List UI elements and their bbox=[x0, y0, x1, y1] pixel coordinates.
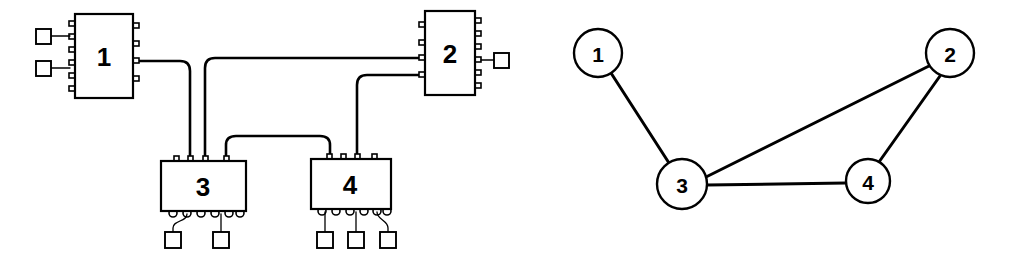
block-2-label: 2 bbox=[443, 39, 457, 69]
block-3-label: 3 bbox=[196, 172, 210, 202]
terminal-3b[interactable] bbox=[213, 232, 229, 248]
graph-edges-layer bbox=[611, 66, 940, 185]
terminal-1a[interactable] bbox=[36, 29, 51, 44]
wires-layer bbox=[133, 58, 425, 163]
figure-root: 1 bbox=[0, 0, 1013, 261]
block-3[interactable]: 3 bbox=[161, 156, 246, 217]
graph-nodes-layer: 1 2 3 4 bbox=[574, 29, 974, 209]
wire-block1-to-block3 bbox=[133, 61, 190, 163]
terminal-4b[interactable] bbox=[348, 232, 364, 248]
block-2-terminals bbox=[481, 53, 509, 68]
node-1-label: 1 bbox=[592, 43, 604, 66]
block-diagram-panel: 1 bbox=[36, 11, 509, 248]
edge-node3-node2 bbox=[706, 66, 929, 177]
edge-node3-node4 bbox=[707, 183, 846, 185]
node-3-label: 3 bbox=[676, 174, 688, 197]
terminal-4a[interactable] bbox=[317, 232, 333, 248]
figure-canvas: 1 bbox=[0, 0, 1013, 261]
block-1-label: 1 bbox=[97, 42, 111, 72]
node-4-label: 4 bbox=[862, 171, 874, 194]
graph-node-2[interactable]: 2 bbox=[926, 29, 974, 77]
terminal-4c[interactable] bbox=[380, 232, 396, 248]
block-1[interactable]: 1 bbox=[69, 14, 139, 98]
graph-node-3[interactable]: 3 bbox=[657, 159, 707, 209]
graph-node-4[interactable]: 4 bbox=[846, 159, 890, 203]
wire-block2-to-block4 bbox=[357, 75, 425, 161]
terminal-3a[interactable] bbox=[165, 232, 181, 248]
block-4[interactable]: 4 bbox=[311, 154, 391, 215]
block-4-terminals bbox=[317, 212, 396, 248]
terminal-1b[interactable] bbox=[36, 61, 51, 76]
edge-node1-node3 bbox=[611, 73, 669, 163]
block-3-terminals bbox=[165, 214, 229, 248]
edge-node4-node2 bbox=[879, 76, 940, 162]
connectivity-graph-panel: 1 2 3 4 bbox=[574, 29, 974, 209]
block-2[interactable]: 2 bbox=[419, 11, 481, 95]
terminal-2a[interactable] bbox=[494, 53, 509, 68]
node-2-label: 2 bbox=[944, 43, 956, 66]
block-1-terminals bbox=[36, 29, 70, 76]
block-4-label: 4 bbox=[343, 170, 358, 200]
graph-node-1[interactable]: 1 bbox=[574, 29, 622, 77]
